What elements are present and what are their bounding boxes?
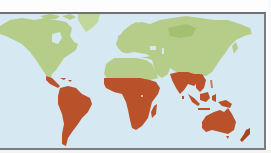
lake-victoria [141,95,143,97]
region-sri-lanka [182,96,184,99]
region-java [198,108,210,110]
right-margin [268,0,271,153]
map-frame [0,12,266,150]
bottom-margin [0,150,271,153]
world-map [0,14,264,148]
top-margin [0,0,271,12]
